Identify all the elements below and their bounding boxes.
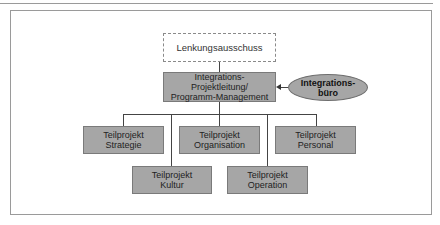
subproject-label: Teilprojekt Personal — [295, 130, 336, 150]
subproject-label: Teilprojekt Operation — [247, 170, 288, 190]
integration-office-label: Integrations- büro — [301, 78, 356, 98]
connector-steering-to-pm — [219, 62, 220, 72]
subproject-label: Teilprojekt Strategie — [103, 130, 144, 150]
steering-committee-box: Lenkungsausschuss — [163, 33, 276, 62]
subproject-label: Teilprojekt Kultur — [152, 170, 193, 190]
subproject-label: Teilprojekt Organisation — [194, 130, 245, 150]
program-management-label: Integrations- Projektleitung/ Programm-M… — [171, 72, 269, 102]
arrow-head-icon — [276, 84, 281, 90]
subproject-strategie-box: Teilprojekt Strategie — [83, 126, 164, 154]
connector-drop-strategie — [123, 114, 124, 126]
subproject-personal-box: Teilprojekt Personal — [275, 126, 356, 154]
connector-drop-personal — [316, 114, 317, 126]
integration-office-ellipse: Integrations- büro — [288, 74, 368, 101]
subproject-operation-box: Teilprojekt Operation — [227, 166, 308, 194]
connector-pm-to-bus — [219, 102, 220, 114]
program-management-box: Integrations- Projektleitung/ Programm-M… — [163, 72, 276, 102]
steering-committee-label: Lenkungsausschuss — [176, 43, 262, 53]
subproject-kultur-box: Teilprojekt Kultur — [132, 166, 212, 194]
connector-drop-kultur — [171, 114, 172, 166]
connector-drop-organisation — [219, 114, 220, 126]
subproject-organisation-box: Teilprojekt Organisation — [179, 126, 260, 154]
connector-office-to-pm — [280, 87, 288, 88]
connector-drop-operation — [267, 114, 268, 166]
top-rule — [0, 3, 433, 4]
connector-bus — [123, 114, 317, 115]
